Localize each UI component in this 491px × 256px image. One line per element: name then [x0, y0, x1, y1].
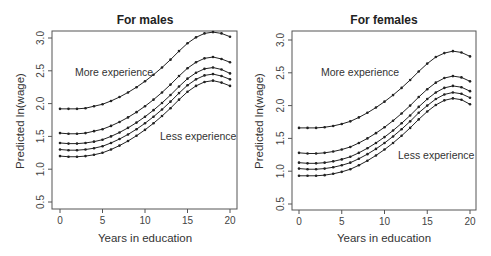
data-point [93, 130, 96, 133]
data-point [169, 58, 172, 61]
y-tick-label: 2.0 [35, 96, 46, 110]
annotation-more-experience-males: More experience [75, 66, 153, 78]
data-point [435, 104, 438, 107]
data-point [409, 127, 412, 130]
data-point [229, 78, 232, 81]
y-tick-label: 3.0 [35, 31, 46, 45]
data-point [144, 115, 147, 118]
data-point [195, 85, 198, 88]
data-point [315, 152, 318, 155]
data-point [383, 148, 386, 151]
data-point [152, 115, 155, 118]
data-point [186, 67, 189, 70]
data-point [195, 36, 198, 39]
data-point [349, 161, 352, 164]
data-point [426, 88, 429, 91]
data-point [93, 147, 96, 150]
data-point [76, 155, 79, 158]
data-point [76, 149, 79, 152]
data-point [332, 150, 335, 153]
data-point [161, 91, 164, 94]
data-point [93, 153, 96, 156]
data-point [417, 106, 420, 109]
data-point [101, 103, 104, 106]
figure: For males Years in education Predicted l… [0, 0, 491, 256]
chart-title-males: For males [117, 13, 174, 27]
data-point [59, 132, 62, 135]
chart-canvas: For males Years in education Predicted l… [0, 0, 491, 256]
data-point [443, 52, 446, 55]
data-point [118, 131, 121, 134]
data-point [366, 137, 369, 140]
data-point [392, 119, 395, 122]
data-point [460, 51, 463, 54]
data-point [152, 122, 155, 125]
y-tick-label: 1.0 [275, 164, 286, 178]
data-point [118, 96, 121, 99]
data-point [332, 166, 335, 169]
data-point [383, 136, 386, 139]
data-point [409, 104, 412, 107]
data-point [152, 98, 155, 101]
data-point [67, 149, 70, 152]
data-point [212, 66, 215, 69]
data-point [169, 100, 172, 103]
data-point [178, 50, 181, 53]
x-axis-label-females: Years in education [337, 232, 431, 244]
data-point [178, 85, 181, 88]
data-point [443, 77, 446, 80]
data-point [298, 161, 301, 164]
data-point [186, 77, 189, 80]
data-point [435, 56, 438, 59]
plot-females: 051015200.51.01.52.02.53.0 [275, 31, 476, 227]
data-point [460, 98, 463, 101]
y-axis-label-females: Predicted ln(wage) [253, 73, 265, 169]
data-point [135, 121, 138, 124]
y-tick-label: 2.5 [35, 63, 46, 77]
data-point [186, 84, 189, 87]
data-point [135, 134, 138, 137]
x-tick-label: 15 [182, 215, 194, 226]
data-point [144, 105, 147, 108]
y-tick-label: 2.5 [275, 65, 286, 79]
data-point [323, 152, 326, 155]
data-point [178, 92, 181, 95]
data-point [323, 161, 326, 164]
data-point [229, 35, 232, 38]
data-point [426, 110, 429, 113]
data-point [76, 142, 79, 145]
x-tick-label: 20 [224, 215, 236, 226]
data-point [229, 61, 232, 64]
data-point [220, 75, 223, 78]
data-point [101, 152, 104, 155]
y-tick-label: 0.5 [35, 195, 46, 209]
y-axis-label-males: Predicted ln(wage) [14, 73, 26, 169]
annotation-less-experience-males: Less experience [160, 130, 237, 142]
data-point [84, 155, 87, 158]
data-point [358, 164, 361, 167]
data-point [349, 146, 352, 149]
data-point [332, 125, 335, 128]
data-point [101, 145, 104, 148]
data-point [315, 127, 318, 130]
data-point [375, 132, 378, 135]
data-point [375, 154, 378, 157]
data-point [358, 157, 361, 160]
data-point [298, 127, 301, 130]
data-point [340, 148, 343, 151]
data-point [220, 68, 223, 71]
data-point [203, 74, 206, 77]
data-point [426, 104, 429, 107]
data-point [135, 111, 138, 114]
data-point [306, 168, 309, 171]
data-point [435, 91, 438, 94]
data-point [161, 66, 164, 69]
series-line [299, 51, 470, 128]
data-point [443, 93, 446, 96]
data-point [306, 152, 309, 155]
data-point [144, 80, 147, 83]
data-point [306, 162, 309, 165]
data-point [110, 135, 113, 138]
data-point [358, 152, 361, 155]
data-point [212, 73, 215, 76]
